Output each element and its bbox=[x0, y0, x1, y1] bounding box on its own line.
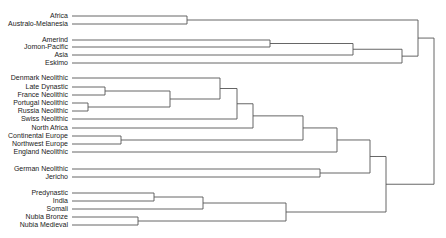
leaf-label-africa: Africa bbox=[50, 12, 68, 19]
leaf-label-predyn: Predynastic bbox=[31, 189, 68, 197]
branches bbox=[72, 16, 434, 225]
leaf-label-somali: Somali bbox=[47, 205, 69, 212]
leaf-label-india: India bbox=[53, 197, 68, 204]
leaf-label-australo: Australo-Melanesia bbox=[8, 20, 68, 27]
leaf-label-england: England Neolithic bbox=[14, 148, 69, 156]
leaf-label-asia: Asia bbox=[54, 51, 68, 58]
leaf-label-nubiam: Nubia Medieval bbox=[20, 221, 69, 228]
leaf-label-german: German Neolithic bbox=[14, 165, 69, 172]
leaf-label-latedyn: Late Dynastic bbox=[26, 83, 69, 91]
leaf-labels: AfricaAustralo-MelanesiaAmerindJomon-Pac… bbox=[8, 12, 68, 228]
leaf-label-nweur: Northwest Europe bbox=[12, 140, 68, 148]
leaf-label-nafrica: North Africa bbox=[31, 124, 68, 131]
leaf-label-russia: Russia Neolithic bbox=[18, 107, 69, 114]
leaf-label-france: France Neolithic bbox=[17, 91, 68, 98]
leaf-label-conteur: Continental Europe bbox=[8, 132, 68, 140]
leaf-label-denmark: Denmark Neolithic bbox=[11, 74, 69, 81]
leaf-label-jomon: Jomon-Pacific bbox=[24, 43, 68, 50]
leaf-label-swiss: Swiss Neolithic bbox=[21, 115, 69, 122]
leaf-label-nubiab: Nubia Bronze bbox=[26, 213, 69, 220]
leaf-label-amerind: Amerind bbox=[42, 36, 68, 43]
dendrogram: AfricaAustralo-MelanesiaAmerindJomon-Pac… bbox=[0, 0, 446, 238]
leaf-label-eskimo: Eskimo bbox=[45, 59, 68, 66]
leaf-label-portugal: Portugal Neolithic bbox=[13, 99, 68, 107]
leaf-label-jericho: Jericho bbox=[45, 173, 68, 180]
